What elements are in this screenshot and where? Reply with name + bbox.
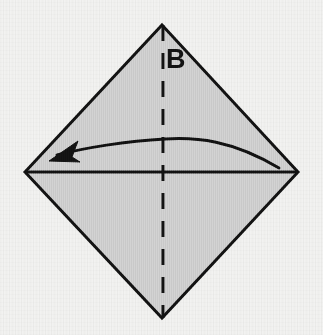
figure-canvas: B bbox=[0, 0, 323, 335]
vertex-label-b: B bbox=[166, 44, 186, 74]
origami-diagram: B bbox=[0, 0, 323, 335]
